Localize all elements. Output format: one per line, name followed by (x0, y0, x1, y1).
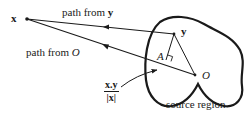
path-from-y-arrow-icon (103, 25, 109, 30)
path-from-o-prefix: path from (26, 46, 72, 58)
projection-fraction: x.y |x| (104, 80, 119, 103)
right-angle-marker (168, 55, 173, 61)
path-from-y-label: path from y (62, 7, 113, 18)
point-o-label: O (202, 70, 210, 81)
point-o (194, 74, 197, 77)
projection-numerator: x.y (104, 80, 119, 92)
projection-denominator: |x| (104, 92, 119, 103)
point-x (25, 17, 29, 21)
point-y (173, 33, 176, 36)
point-x-label: x (11, 13, 17, 24)
point-a-label: A (157, 51, 164, 62)
projection-pointer-arrow (121, 70, 157, 87)
path-from-o-label: path from O (26, 47, 80, 58)
path-from-y-var: y (108, 6, 114, 18)
point-y-label: y (181, 26, 187, 37)
path-from-o-arrow-icon (102, 44, 109, 50)
source-region-label: source region (166, 99, 226, 110)
path-from-y-prefix: path from (62, 6, 108, 18)
path-from-o-var: O (72, 46, 80, 58)
